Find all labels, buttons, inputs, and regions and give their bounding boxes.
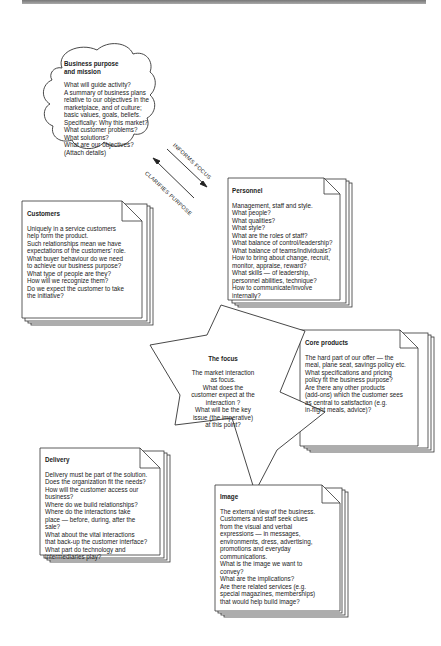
customers-line: expectations of the customers' role.: [27, 247, 126, 255]
personnel-line: Management, staff and style.: [232, 202, 332, 210]
personnel-line: What are the roles of staff?: [232, 232, 332, 240]
image-line: special magazines, memberships): [220, 590, 315, 598]
core-products-line: The hard part of our offer — the: [305, 354, 406, 362]
focus-line: at this point?: [168, 421, 278, 429]
focus-line: customer expect at the: [168, 391, 278, 399]
business-purpose-line: What will guide activity?: [64, 81, 149, 89]
core-products-title: Core products: [305, 339, 406, 347]
delivery-node: Delivery Delivery must be part of the so…: [45, 456, 147, 561]
delivery-line: What part do technology and: [45, 546, 147, 554]
image-line: convey?: [220, 568, 315, 576]
business-purpose-line: A summary of business plans: [64, 89, 149, 97]
image-line: Customers and staff seek clues: [220, 515, 315, 523]
personnel-title: Personnel: [232, 187, 332, 195]
core-products-node: Core products The hard part of our offer…: [305, 339, 406, 414]
business-purpose-line: What solutions?: [64, 134, 149, 142]
customers-line: How will we recognize them?: [27, 277, 126, 285]
delivery-line: Does the organization fit the needs?: [45, 478, 147, 486]
image-line: that would help build image?: [220, 598, 315, 606]
image-title: Image: [220, 493, 315, 501]
image-line: promotions and everyday: [220, 545, 315, 553]
image-line: from the visual and verbal: [220, 523, 315, 531]
image-line: environments, dress, advertising,: [220, 538, 315, 546]
delivery-line: What about the vital interactions: [45, 531, 147, 539]
focus-line: issue (the imperative): [168, 414, 278, 422]
business-purpose-line: relative to our objectives in the: [64, 96, 149, 104]
customers-line: help form the product.: [27, 232, 126, 240]
core-products-line: as central to satisfaction (e.g.: [305, 399, 406, 407]
business-purpose-node: Business purpose and mission What will g…: [64, 60, 149, 156]
image-line: expressions — in messages,: [220, 530, 315, 538]
personnel-line: internally?: [232, 292, 332, 300]
personnel-line: How to bring about change, recruit,: [232, 254, 332, 262]
business-purpose-line: Specifically: Why this market?: [64, 119, 149, 127]
business-purpose-title: Business purpose: [64, 60, 149, 68]
focus-line: The market interaction: [168, 369, 278, 377]
customers-line: to achieve our business purpose?: [27, 262, 126, 270]
delivery-line: sale?: [45, 523, 147, 531]
personnel-node: Personnel Management, staff and style. W…: [232, 187, 332, 299]
business-purpose-line: (Attach details): [64, 149, 149, 157]
business-purpose-line: What are our objectives?: [64, 141, 149, 149]
focus-node: The focus The market interaction as focu…: [168, 355, 278, 429]
personnel-line: What qualities?: [232, 217, 332, 225]
delivery-line: Delivery must be part of the solution.: [45, 471, 147, 479]
customers-line: Uniquely in a service customers: [27, 225, 126, 233]
business-purpose-line: basic values, goals, beliefs.: [64, 111, 149, 119]
image-line: What are the implications?: [220, 575, 315, 583]
personnel-line: What balance of teams/individuals?: [232, 247, 332, 255]
core-products-line: Are there any other products: [305, 384, 406, 392]
customers-node: Customers Uniquely in a service customer…: [27, 210, 126, 300]
image-node: Image The external view of the business.…: [220, 493, 315, 605]
delivery-line: place — before, during, after the: [45, 516, 147, 524]
focus-line: interaction ?: [168, 399, 278, 407]
focus-line: as focus.: [168, 376, 278, 384]
personnel-line: monitor, appraise, reward?: [232, 262, 332, 270]
core-products-line: What specifications and pricing: [305, 369, 406, 377]
clarifies-purpose-arrow: [153, 158, 194, 198]
core-products-line: in-flight meals, advice)?: [305, 406, 406, 414]
customers-line: Do we expect the customer to take: [27, 285, 126, 293]
image-line: Are there related services (e.g.: [220, 583, 315, 591]
core-products-line: meal, plane seat, savings policy etc.: [305, 361, 406, 369]
delivery-line: intermediaries play?: [45, 553, 147, 561]
business-purpose-line: marketplace, and of culture;: [64, 104, 149, 112]
personnel-line: What balance of control/leadership?: [232, 239, 332, 247]
business-purpose-title: and mission: [64, 68, 149, 76]
core-products-line: (add-ons) which the customer sees: [305, 391, 406, 399]
personnel-line: What people?: [232, 209, 332, 217]
delivery-title: Delivery: [45, 456, 147, 464]
personnel-line: What skills — of leadership,: [232, 269, 332, 277]
core-products-line: policy fit the business purpose?: [305, 376, 406, 384]
focus-line: What does the: [168, 384, 278, 392]
customers-line: Such relationships mean we have: [27, 240, 126, 248]
personnel-line: personnel abilities, technique?: [232, 277, 332, 285]
image-line: What is the image we want to: [220, 560, 315, 568]
personnel-line: How to communicate/involve: [232, 284, 332, 292]
delivery-line: business?: [45, 493, 147, 501]
delivery-line: that back-up the customer interface?: [45, 538, 147, 546]
delivery-line: Where do the interactions take: [45, 508, 147, 516]
delivery-line: Where do we build relationships?: [45, 501, 147, 509]
customers-line: What type of people are they?: [27, 270, 126, 278]
personnel-line: What style?: [232, 224, 332, 232]
focus-title: The focus: [168, 355, 278, 363]
focus-line: What will be the key: [168, 406, 278, 414]
image-line: The external view of the business.: [220, 508, 315, 516]
delivery-line: How will the customer access our: [45, 486, 147, 494]
customers-line: What buyer behaviour do we need: [27, 255, 126, 263]
customers-title: Customers: [27, 210, 126, 218]
business-purpose-line: What customer problems?: [64, 126, 149, 134]
customers-line: the initiative?: [27, 292, 126, 300]
image-line: communications.: [220, 553, 315, 561]
